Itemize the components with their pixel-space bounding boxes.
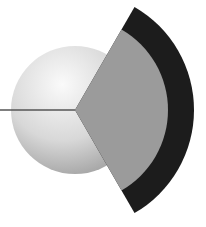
sphere-cutaway-diagram xyxy=(0,0,206,227)
